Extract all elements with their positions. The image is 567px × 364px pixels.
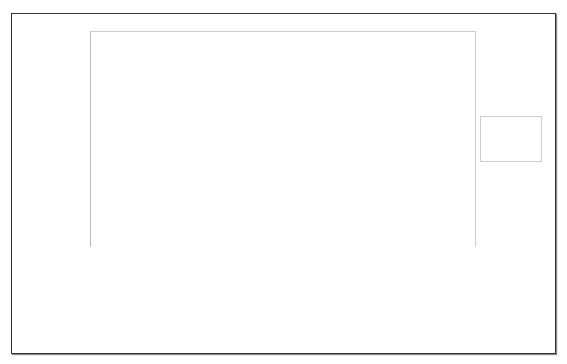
legend: [480, 116, 542, 162]
y-axis: [90, 31, 91, 247]
plot-area: [90, 31, 476, 247]
